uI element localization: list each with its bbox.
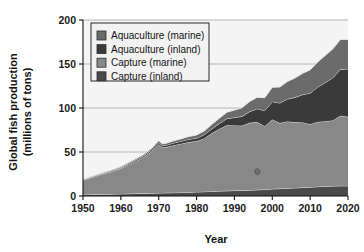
legend-label-3[interactable]: Capture (inland) [111, 71, 183, 82]
annotations [255, 169, 260, 175]
legend-label-2[interactable]: Capture (marine) [111, 57, 187, 68]
x-tick-label-2020: 2020 [336, 202, 360, 214]
x-axis-title: Year [204, 233, 228, 245]
y-tick-label-50: 50 [64, 146, 76, 158]
y-tick-label-150: 150 [58, 58, 76, 70]
legend-swatch-0 [97, 31, 106, 40]
legend-label-1[interactable]: Aquaculture (inland) [111, 44, 201, 55]
x-tick-label-1950: 1950 [71, 202, 95, 214]
x-tick-label-1980: 1980 [185, 202, 209, 214]
y-axis-title-line1: Global fish production [7, 53, 19, 171]
x-tick-label-2010: 2010 [298, 202, 322, 214]
legend-swatch-3 [97, 72, 106, 81]
legend-swatch-2 [97, 58, 106, 67]
y-tick-label-0: 0 [70, 190, 76, 202]
y-tick-label-200: 200 [58, 14, 76, 26]
legend[interactable]: Aquaculture (marine)Aquaculture (inland)… [91, 23, 209, 82]
legend-label-0[interactable]: Aquaculture (marine) [111, 30, 204, 41]
fish-marker-icon [255, 169, 260, 175]
x-tick-label-2000: 2000 [261, 202, 285, 214]
y-axis-title-line2: (millions of tons) [21, 67, 33, 156]
legend-swatch-1 [97, 45, 106, 54]
figure-container: 19501960197019801990200020102020 0501001… [0, 0, 364, 252]
x-tick-label-1970: 1970 [147, 202, 171, 214]
x-tick-label-1960: 1960 [109, 202, 133, 214]
x-tick-label-1990: 1990 [223, 202, 247, 214]
fish-production-area-chart: 19501960197019801990200020102020 0501001… [0, 0, 364, 252]
y-tick-label-100: 100 [58, 102, 76, 114]
